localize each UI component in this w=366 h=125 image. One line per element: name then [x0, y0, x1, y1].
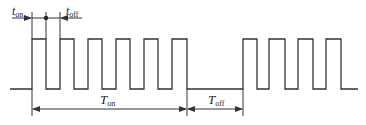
t-off-label: toff — [66, 4, 79, 19]
pulse-waveform — [10, 39, 358, 89]
pulse-timing-diagram: ton toff Ton Toff — [0, 0, 366, 125]
t-on-label: ton — [12, 4, 23, 19]
T-on-label: Ton — [100, 92, 115, 108]
junction-dot — [44, 16, 48, 20]
T-off-label: Toff — [208, 92, 225, 108]
